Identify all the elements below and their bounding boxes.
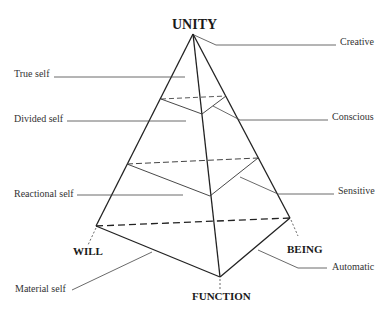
vertex-being: BEING <box>287 243 323 255</box>
vertex-function: FUNCTION <box>192 290 251 302</box>
left-leaders <box>54 77 186 290</box>
back-edge-dashed <box>96 218 290 226</box>
vertex-unity: UNITY <box>172 17 217 32</box>
label-creative: Creative <box>340 36 374 47</box>
vertex-will: WILL <box>73 245 103 257</box>
label-reactional-self: Reactional self <box>14 188 74 199</box>
label-divided-self: Divided self <box>14 113 64 124</box>
label-conscious: Conscious <box>332 111 374 122</box>
label-sensitive: Sensitive <box>338 185 375 196</box>
pyramid-edges <box>96 34 290 277</box>
pyramid-diagram: UNITY WILL BEING FUNCTION True self Divi… <box>0 0 387 315</box>
label-material-self: Material self <box>15 283 66 294</box>
middle-section <box>127 158 258 196</box>
upper-section <box>161 96 226 114</box>
label-true-self: True self <box>14 68 50 79</box>
label-automatic: Automatic <box>332 261 375 272</box>
